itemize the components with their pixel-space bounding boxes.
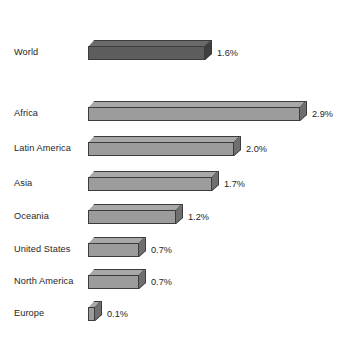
bar-3d: [88, 101, 307, 123]
bar-row: United States0.7%: [0, 237, 349, 261]
bar-front-face: [88, 210, 176, 224]
bar-row: Oceania1.2%: [0, 204, 349, 228]
category-label: World: [0, 40, 78, 64]
bar-3d: [88, 269, 146, 291]
bar-front-face: [88, 142, 234, 156]
category-label: Africa: [0, 101, 78, 125]
bar-3d: [88, 301, 102, 323]
bar-3d: [88, 204, 183, 226]
value-label: 0.7%: [151, 269, 172, 293]
category-label: Europe: [0, 301, 78, 325]
value-label: 2.9%: [312, 101, 333, 125]
bar-wrapper: [88, 237, 146, 261]
bar-row: Asia1.7%: [0, 171, 349, 195]
value-label: 2.0%: [246, 136, 267, 160]
category-label: North America: [0, 269, 78, 293]
value-label: 1.6%: [217, 40, 238, 64]
bar-front-face: [88, 46, 205, 60]
bar-row: North America0.7%: [0, 269, 349, 293]
value-label: 1.7%: [224, 171, 245, 195]
bar-wrapper: [88, 204, 183, 228]
bar-3d: [88, 237, 146, 259]
bar-row: Africa2.9%: [0, 101, 349, 125]
bar-front-face: [88, 307, 95, 321]
bar-front-face: [88, 107, 300, 121]
bar-row: World1.6%: [0, 40, 349, 64]
bar-wrapper: [88, 171, 219, 195]
bar-3d: [88, 171, 219, 193]
bar-wrapper: [88, 136, 241, 160]
category-label: Asia: [0, 171, 78, 195]
category-label: United States: [0, 237, 78, 261]
bar-3d: [88, 136, 241, 158]
bar-wrapper: [88, 301, 102, 325]
bar-wrapper: [88, 101, 307, 125]
bar-chart: World1.6%Africa2.9%Latin America2.0%Asia…: [0, 0, 349, 346]
bar-wrapper: [88, 40, 212, 64]
bar-front-face: [88, 275, 139, 289]
bar-wrapper: [88, 269, 146, 293]
bar-row: Latin America2.0%: [0, 136, 349, 160]
value-label: 0.1%: [107, 301, 128, 325]
bar-3d: [88, 40, 212, 62]
value-label: 1.2%: [188, 204, 209, 228]
value-label: 0.7%: [151, 237, 172, 261]
bar-row: Europe0.1%: [0, 301, 349, 325]
category-label: Latin America: [0, 136, 78, 160]
bar-front-face: [88, 243, 139, 257]
bar-front-face: [88, 177, 212, 191]
category-label: Oceania: [0, 204, 78, 228]
